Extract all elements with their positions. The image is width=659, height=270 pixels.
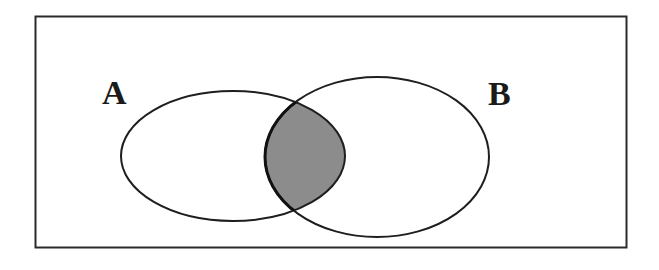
set-b-label: B [488, 75, 511, 112]
venn-diagram: A B [0, 0, 659, 270]
set-a-label: A [102, 74, 127, 111]
